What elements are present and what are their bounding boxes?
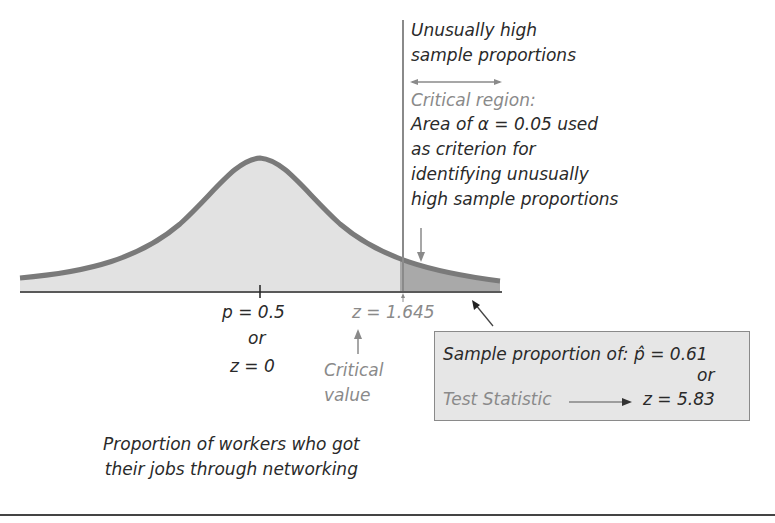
x-axis-label-line2: their jobs through networking — [103, 457, 360, 482]
area-line3: identifying unusually — [411, 162, 618, 187]
center-label-p: p = 0.5 — [222, 302, 285, 322]
annotation-title-line2: sample proportions — [411, 43, 576, 68]
critical-value-label: Critical value — [324, 358, 383, 408]
footer-rule — [0, 514, 775, 516]
critical-value-line2: value — [324, 383, 383, 408]
sample-or-text: or — [697, 365, 714, 385]
annotation-title-line1: Unusually high — [411, 18, 576, 43]
area-line4: high sample proportions — [411, 187, 618, 212]
sample-arrow — [475, 304, 493, 326]
test-statistic-arrow — [569, 396, 633, 408]
area-line1: Area of α = 0.05 used — [411, 112, 618, 137]
sample-proportion-text: Sample proportion of: p̂ = 0.61 — [443, 344, 708, 364]
annotation-title: Unusually high sample proportions — [411, 18, 576, 68]
critical-z-label: z = 1.645 — [352, 302, 435, 322]
critical-value-line1: Critical — [324, 358, 383, 383]
critical-region-label: Critical region: — [411, 90, 536, 110]
area-line2: as criterion for — [411, 137, 618, 162]
x-axis-label: Proportion of workers who got their jobs… — [103, 432, 360, 482]
center-label-z: z = 0 — [230, 356, 275, 376]
sample-proportion-box: Sample proportion of: p̂ = 0.61 or Test … — [434, 331, 750, 421]
test-statistic-value: z = 5.83 — [643, 389, 715, 409]
center-label-or: or — [248, 328, 265, 348]
critical-region-description: Area of α = 0.05 used as criterion for i… — [411, 112, 618, 212]
x-axis-label-line1: Proportion of workers who got — [103, 432, 360, 457]
test-statistic-label: Test Statistic — [443, 389, 552, 409]
